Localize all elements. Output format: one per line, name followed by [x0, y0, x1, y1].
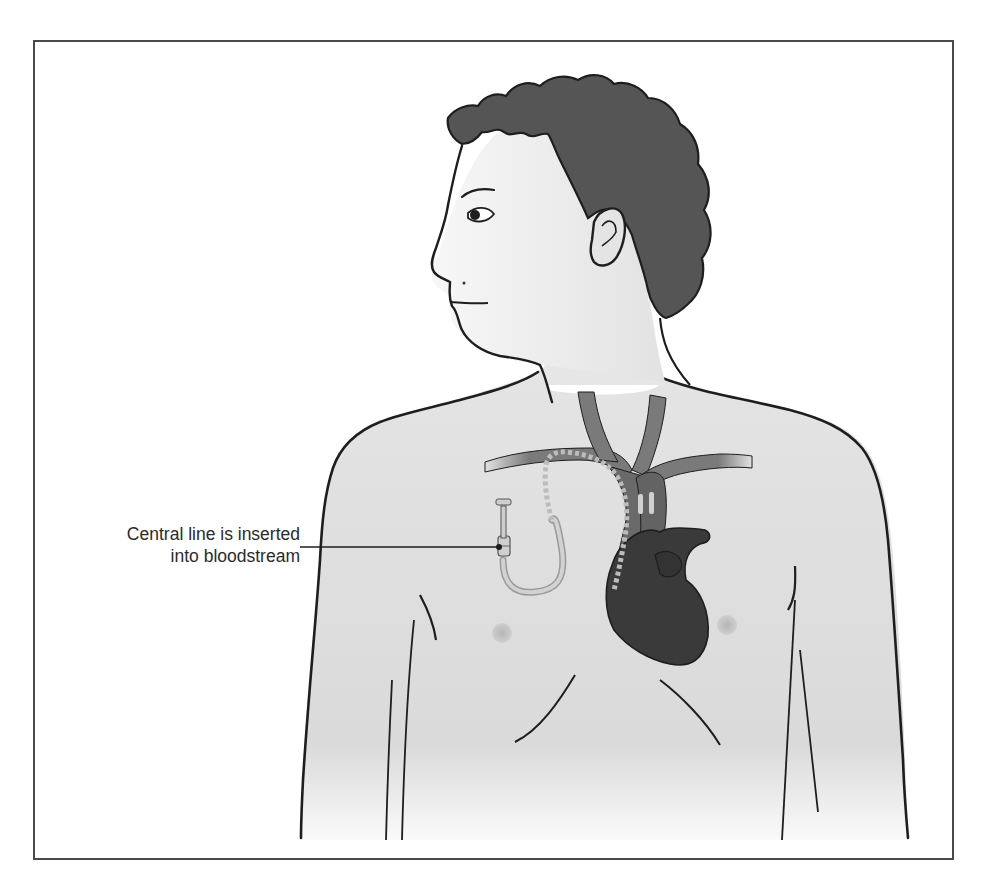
nipple-left — [492, 623, 512, 643]
head — [432, 75, 711, 402]
callout-label: Central line is inserted into bloodstrea… — [127, 523, 300, 567]
torso — [300, 300, 908, 840]
callout-line-2: into bloodstream — [127, 545, 300, 567]
medical-illustration — [0, 0, 984, 880]
nipple-right — [717, 615, 737, 635]
callout-line-1: Central line is inserted — [127, 523, 300, 545]
